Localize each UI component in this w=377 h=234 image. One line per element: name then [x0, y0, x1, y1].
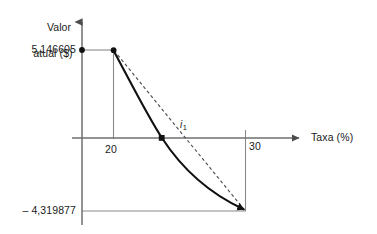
irr-annotation-label: i1 [180, 118, 187, 132]
x-axis-tick-label-20: 20 [105, 143, 117, 156]
data-point-marker-20 [111, 47, 117, 53]
y-axis-tick-label-lower: – 4,319877 [8, 204, 76, 217]
y-axis-tick-label-upper: 5,146605 [14, 43, 76, 56]
irr-symbol: i [180, 119, 182, 130]
x-axis-label: Taxa (%) [311, 131, 353, 144]
x-axis-tick-label-30: 30 [249, 140, 261, 153]
irr-subscript: 1 [183, 123, 187, 132]
y-axis-label-line1: Valor [47, 21, 71, 33]
present-value-vs-rate-figure: Valor atual ($) 5,146605 – 4,319877 20 3… [0, 0, 377, 234]
data-point-marker-irr [159, 135, 165, 141]
